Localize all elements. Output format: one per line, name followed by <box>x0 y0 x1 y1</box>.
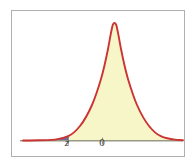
z-axis-label: z <box>60 137 74 148</box>
zero-axis-label: 0 <box>95 137 109 148</box>
figure-frame: z 0 <box>11 10 185 157</box>
screenshot-root: z 0 <box>0 0 196 165</box>
body-fill-area <box>68 23 183 141</box>
normal-curve-plot <box>12 11 184 156</box>
